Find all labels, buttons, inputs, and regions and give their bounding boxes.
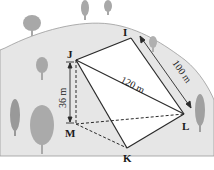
measurement-JM: 36 m bbox=[57, 88, 68, 109]
point-label-I: I bbox=[123, 26, 127, 38]
point-label-M: M bbox=[65, 127, 76, 139]
hill-geometry-diagram: I J L M K 120 m 100 m 36 m bbox=[0, 0, 214, 170]
point-label-L: L bbox=[182, 120, 189, 132]
point-label-J: J bbox=[67, 48, 73, 60]
tree-icon bbox=[81, 0, 89, 20]
tree-icon bbox=[104, 0, 112, 15]
tree-icon bbox=[23, 15, 41, 36]
point-label-K: K bbox=[123, 152, 132, 164]
